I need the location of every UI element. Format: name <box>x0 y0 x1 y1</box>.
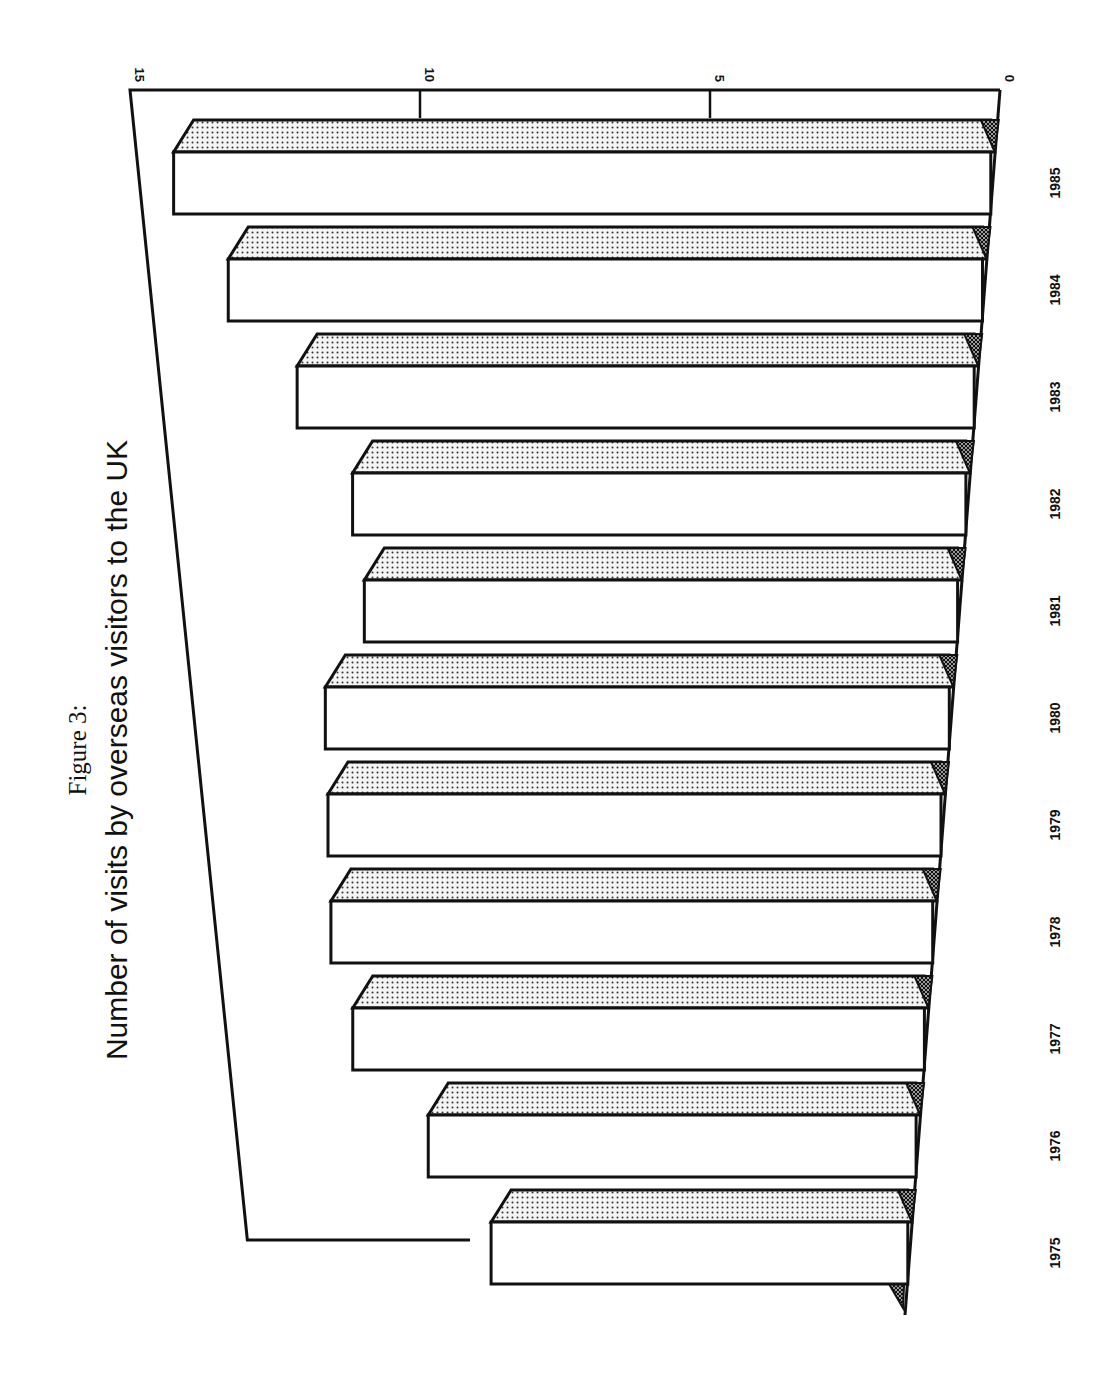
bar <box>428 1083 924 1177</box>
chart-bars <box>174 120 999 1284</box>
x-category-label: 1983 <box>1047 381 1063 412</box>
bar <box>325 655 957 749</box>
bar <box>228 227 990 321</box>
bar <box>353 441 974 535</box>
x-category-label: 1976 <box>1047 1130 1063 1161</box>
bar <box>174 120 999 214</box>
y-tick-label: 15 <box>132 68 147 82</box>
y-tick-label: 5 <box>712 75 727 82</box>
bar <box>491 1190 916 1284</box>
y-tick-label: 0 <box>1002 75 1017 82</box>
x-category-label: 1978 <box>1047 916 1063 947</box>
x-category-label: 1982 <box>1047 488 1063 519</box>
bar <box>353 976 933 1070</box>
y-tick-label: 10 <box>422 68 437 82</box>
x-category-label: 1975 <box>1047 1237 1063 1268</box>
bar <box>328 762 949 856</box>
x-category-label: 1981 <box>1047 595 1063 626</box>
x-category-label: 1984 <box>1047 274 1063 305</box>
bar <box>297 334 982 428</box>
x-category-label: 1979 <box>1047 809 1063 840</box>
bar <box>364 548 965 642</box>
x-category-label: 1985 <box>1047 167 1063 198</box>
bar-chart: 0510151985198419831982198119801979197819… <box>0 0 1119 1379</box>
bar <box>331 869 941 963</box>
x-category-label: 1980 <box>1047 702 1063 733</box>
x-category-label: 1977 <box>1047 1023 1063 1054</box>
